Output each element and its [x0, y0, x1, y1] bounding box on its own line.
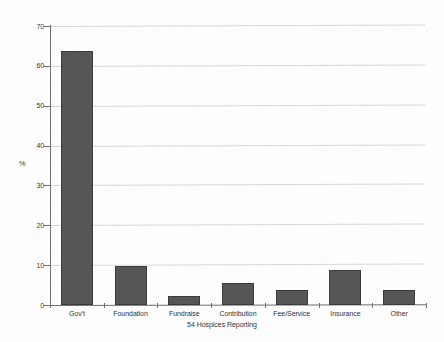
x-axis-label: Insurance: [319, 310, 373, 318]
x-axis-label: Contribution: [211, 310, 265, 318]
y-axis-label: 10: [20, 262, 44, 269]
x-axis-tick: [319, 303, 320, 308]
bar: [222, 283, 254, 305]
bar: [168, 296, 200, 305]
x-axis-tick: [426, 303, 427, 308]
x-axis-tick: [372, 303, 373, 308]
y-axis-label: 50: [20, 102, 44, 109]
x-axis-tick: [211, 303, 212, 308]
x-axis-tick: [104, 303, 105, 308]
x-axis-label: Fee/Service: [265, 310, 319, 318]
bar: [329, 270, 361, 305]
bar: [115, 266, 147, 305]
y-axis-label: 60: [20, 62, 44, 69]
y-axis-label: 20: [20, 222, 44, 229]
x-axis-label: Other: [372, 310, 426, 318]
x-axis-tick: [50, 303, 51, 308]
x-axis-label: Gov't: [50, 310, 104, 318]
y-axis-label: 30: [20, 182, 44, 189]
chart-subtitle: 54 Hospices Reporting: [0, 321, 444, 329]
bar: [276, 290, 308, 305]
bar-chart: % 010203040506070 Gov'tFoundationFundrai…: [0, 0, 444, 342]
y-axis-label: 70: [20, 23, 44, 30]
x-axis-tick: [265, 303, 266, 308]
bar: [61, 51, 93, 305]
x-axis-tick: [157, 303, 158, 308]
y-axis-title: %: [19, 160, 26, 168]
bar: [383, 290, 415, 305]
y-axis-label: 0: [20, 302, 44, 309]
y-axis-label: 40: [20, 142, 44, 149]
x-axis-label: Foundation: [104, 310, 158, 318]
x-axis-label: Fundraise: [157, 310, 211, 318]
plot-area: [50, 26, 426, 305]
